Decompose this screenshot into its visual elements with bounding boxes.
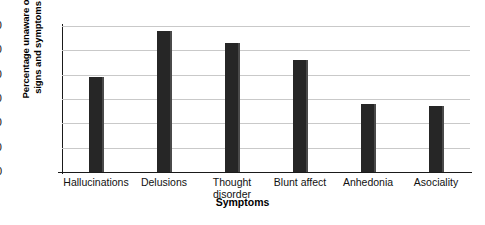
gridline bbox=[62, 50, 470, 51]
y-tick-label: 10 bbox=[0, 142, 2, 153]
bar bbox=[89, 77, 104, 172]
y-axis-title: Percentage unaware of signs and symptoms bbox=[20, 0, 43, 123]
gridline bbox=[62, 99, 470, 100]
y-tick-label: 0 bbox=[0, 166, 2, 177]
bar-chart: Percentage unaware of signs and symptoms… bbox=[0, 0, 485, 225]
bar bbox=[429, 106, 444, 172]
bar bbox=[361, 104, 376, 172]
x-axis-title: Symptoms bbox=[0, 196, 485, 208]
bar bbox=[225, 43, 240, 172]
x-tick-label-line: Asociality bbox=[388, 176, 484, 188]
gridline bbox=[62, 75, 470, 76]
gridline bbox=[62, 148, 470, 149]
y-tick-label: 60 bbox=[0, 20, 2, 31]
y-tick-label: 50 bbox=[0, 44, 2, 55]
bar bbox=[157, 31, 172, 172]
y-tick-label: 40 bbox=[0, 69, 2, 80]
y-axis-title-line-2: signs and symptoms bbox=[31, 0, 43, 123]
y-axis-title-line-1: Percentage unaware of bbox=[20, 0, 32, 123]
y-tick-label: 20 bbox=[0, 117, 2, 128]
plot-area: 0102030405060 HallucinationsDelusionsTho… bbox=[62, 26, 470, 172]
gridline bbox=[62, 26, 470, 27]
gridline bbox=[62, 123, 470, 124]
x-tick-label: Asociality bbox=[388, 176, 484, 188]
y-tick-label: 30 bbox=[0, 93, 2, 104]
bar bbox=[293, 60, 308, 172]
x-axis-line bbox=[58, 172, 472, 173]
